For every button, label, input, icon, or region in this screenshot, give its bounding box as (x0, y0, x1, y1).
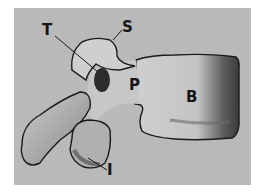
label-P: P (129, 78, 140, 93)
label-I: I (107, 163, 113, 178)
inferior-articular-process (70, 120, 110, 168)
label-B: B (186, 90, 197, 105)
label-S: S (122, 20, 133, 35)
leader-line-S (113, 30, 122, 40)
label-T: T (42, 23, 52, 38)
